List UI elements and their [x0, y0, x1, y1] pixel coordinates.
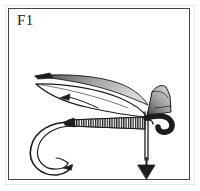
- hook-point: [63, 165, 72, 170]
- wing-tip-marker: [35, 73, 53, 79]
- fly-illustration: [8, 8, 190, 180]
- thread-head: [64, 118, 75, 127]
- figure-panel: F1: [0, 0, 200, 191]
- hook-barb: [56, 158, 68, 163]
- hackle-stem: [146, 116, 172, 132]
- quill-feather: [147, 86, 171, 116]
- wrapped-body: [69, 114, 147, 132]
- direction-arrow: [138, 158, 155, 179]
